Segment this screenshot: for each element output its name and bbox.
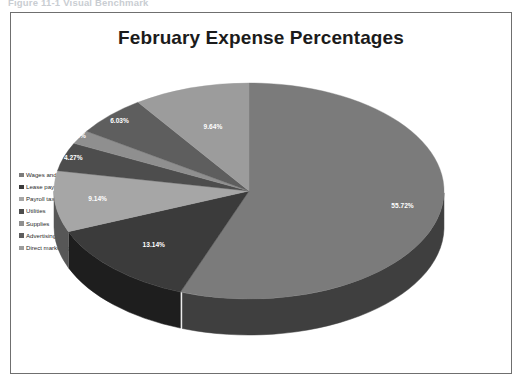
pie-data-label: 4.27% bbox=[64, 154, 83, 161]
pie-data-label: 2.06% bbox=[67, 132, 86, 139]
figure-caption: Figure 11-1 Visual Benchmark bbox=[8, 0, 428, 8]
pie-data-label: 6.03% bbox=[110, 117, 129, 124]
pie-data-label: 9.14% bbox=[88, 195, 107, 202]
pie-chart-svg: 55.72%13.14%9.14%4.27%2.06%6.03%9.64% bbox=[11, 13, 511, 373]
chart-frame: February Expense Percentages Wages and s… bbox=[10, 12, 512, 374]
pie-chart: 55.72%13.14%9.14%4.27%2.06%6.03%9.64% bbox=[11, 13, 511, 373]
pie-data-label: 55.72% bbox=[391, 202, 414, 209]
pie-data-label: 9.64% bbox=[204, 123, 223, 130]
pie-data-label: 13.14% bbox=[143, 241, 166, 248]
figure-screenshot: Figure 11-1 Visual Benchmark February Ex… bbox=[0, 0, 526, 388]
pie-top-slices bbox=[54, 83, 444, 299]
